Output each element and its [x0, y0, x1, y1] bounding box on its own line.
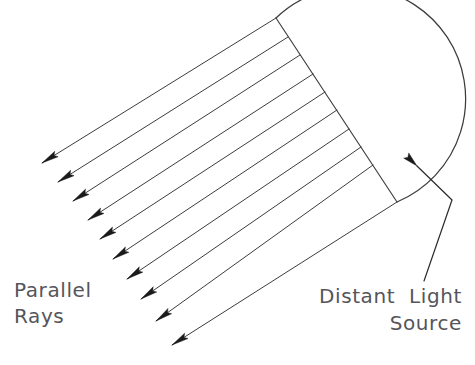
callout-leader-line: [417, 166, 452, 281]
distant-light-source-label-line1: Distant Light: [319, 284, 462, 308]
light-ray-2: [58, 37, 288, 182]
ray-arrow-icon-1: [40, 151, 58, 165]
optics-diagram: Parallel Rays Distant Light Source: [0, 0, 475, 365]
ray-arrow-icon-2: [56, 170, 74, 184]
distant-light-source-figure: Parallel Rays Distant Light Source: [0, 0, 475, 365]
ray-arrow-icon-6: [111, 247, 129, 262]
ray-arrow-icon-3: [71, 189, 89, 204]
light-ray-3: [73, 55, 300, 201]
light-ray-6: [113, 110, 337, 259]
ray-arrow-icon-10: [170, 333, 188, 348]
ray-arrow-icon-8: [139, 287, 157, 302]
light-ray-8: [141, 147, 361, 299]
light-ray-5: [100, 92, 325, 239]
light-ray-10: [172, 202, 397, 345]
distant-light-source-label-line2: Source: [390, 311, 462, 335]
parallel-rays-label-line1: Parallel: [14, 278, 92, 302]
light-ray-4: [88, 74, 313, 220]
parallel-rays-label-line2: Rays: [14, 304, 64, 328]
light-ray-7: [127, 129, 349, 279]
ray-arrow-icon-4: [86, 208, 104, 223]
ray-arrow-icon-9: [154, 308, 172, 323]
ray-arrow-icon-5: [98, 227, 116, 242]
ray-arrow-icon-7: [125, 267, 143, 282]
wavefront-arc: [276, 0, 466, 202]
light-ray-1: [42, 18, 276, 163]
